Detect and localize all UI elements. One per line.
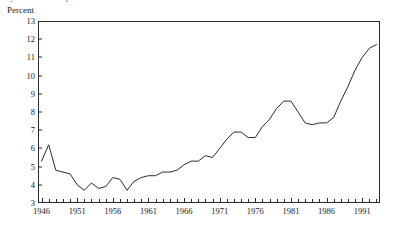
y-tick-label: 7 [31, 125, 35, 135]
y-axis-label: Percent [7, 5, 34, 15]
x-tick-label: 1946 [33, 206, 50, 216]
plot-area: 345678910111213 194619511956196119661971… [38, 21, 380, 203]
series-polyline [42, 45, 377, 191]
x-tick-label: 1951 [69, 206, 86, 216]
x-tick-label: 1961 [140, 206, 157, 216]
x-tick-label: 1986 [318, 206, 335, 216]
x-tick-label: 1966 [176, 206, 193, 216]
clipped-page-title: ty and consumer prices [8, 0, 86, 2]
y-tick-label: 11 [27, 52, 35, 62]
chart-page: ty and consumer prices Percent 345678910… [0, 0, 393, 236]
y-tick-label: 9 [31, 89, 35, 99]
x-tick-label: 1971 [211, 206, 228, 216]
x-tick-label: 1976 [247, 206, 264, 216]
y-tick-label: 6 [31, 143, 35, 153]
y-tick-label: 13 [27, 16, 36, 26]
y-tick-label: 12 [27, 34, 36, 44]
x-tick-label: 1956 [104, 206, 121, 216]
series-line-chart [38, 21, 380, 203]
y-tick-label: 4 [31, 180, 35, 190]
y-tick-label: 8 [31, 107, 35, 117]
y-tick-label: 5 [31, 162, 35, 172]
x-tick-label: 1981 [282, 206, 299, 216]
y-tick-label: 10 [27, 71, 36, 81]
x-tick-label: 1991 [354, 206, 371, 216]
